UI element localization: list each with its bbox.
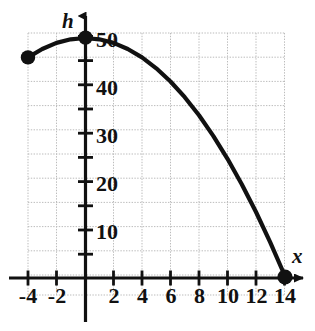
y-tick-label-30: 30 [96, 123, 118, 148]
y-tick-label-20: 20 [96, 171, 118, 196]
coordinate-plane-svg: h x 50 40 30 20 10 -4 -2 2 4 6 8 10 12 1… [0, 0, 315, 331]
graph-figure: h x 50 40 30 20 10 -4 -2 2 4 6 8 10 12 1… [0, 0, 315, 331]
grid-lines [28, 33, 285, 295]
left-endpoint-dot [21, 50, 35, 64]
x-tick-label-14: 14 [274, 283, 296, 308]
x-tick-label-4: 4 [137, 283, 148, 308]
x-tick-label-2: 2 [109, 283, 120, 308]
x-tick-label-neg4: -4 [19, 283, 37, 308]
y-tick-label-50: 50 [96, 27, 118, 52]
x-tick-label-neg2: -2 [48, 283, 66, 308]
x-tick-label-10: 10 [217, 283, 239, 308]
vertex-dot [78, 30, 92, 44]
x-axis-label: x [291, 244, 303, 268]
y-tick-label-40: 40 [96, 75, 118, 100]
y-axis-label: h [62, 9, 74, 33]
x-tick-label-8: 8 [194, 283, 205, 308]
x-tick-label-6: 6 [166, 283, 177, 308]
x-tick-label-12: 12 [246, 283, 268, 308]
y-tick-label-10: 10 [96, 219, 118, 244]
parabola-curve [28, 38, 285, 275]
